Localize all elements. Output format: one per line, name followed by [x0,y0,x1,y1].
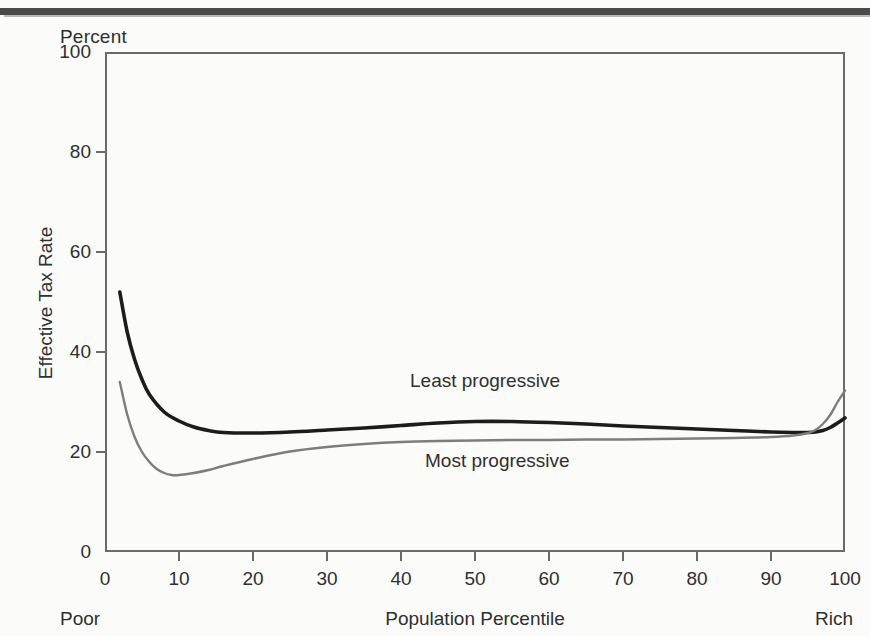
x-axis-left-cap: Poor [60,608,100,630]
x-tick-label: 10 [168,568,189,590]
top-rule [0,8,870,15]
curve-layer [105,52,845,552]
x-tick-label: 50 [464,568,485,590]
y-tick-label: 40 [70,341,91,363]
x-axis-right-cap: Rich [815,608,853,630]
x-tick-label: 70 [612,568,633,590]
top-rule-shadow [4,15,870,17]
y-tick-label: 20 [70,441,91,463]
x-tick-label: 80 [686,568,707,590]
y-tick-label: 60 [70,241,91,263]
series-label-most-progressive: Most progressive [425,450,570,472]
y-tick-label: 80 [70,141,91,163]
x-tick-label: 60 [538,568,559,590]
x-tick-label: 40 [390,568,411,590]
y-tick-label: 100 [59,41,91,63]
x-tick-label: 20 [242,568,263,590]
figure-root: Percent Effective Tax Rate 020406080100 … [0,0,870,636]
x-axis-title: Population Percentile [385,608,565,630]
plot-area: 020406080100 0102030405060708090100 Leas… [105,52,845,552]
y-tick-label: 0 [80,541,91,563]
series-curve-least-progressive [120,292,845,433]
x-tick-label: 0 [100,568,111,590]
x-tick-label: 90 [760,568,781,590]
x-tick-label: 100 [829,568,861,590]
y-axis-title: Effective Tax Rate [35,173,57,433]
series-label-least-progressive: Least progressive [410,370,560,392]
x-tick-label: 30 [316,568,337,590]
